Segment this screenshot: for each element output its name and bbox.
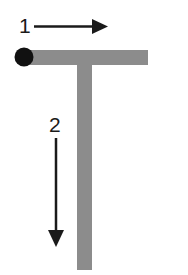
start-dot-icon — [15, 48, 34, 67]
background — [0, 0, 188, 275]
arrow-2-label: 2 — [49, 113, 61, 136]
t-stem-bar — [77, 50, 92, 270]
arrow-1-label: 1 — [19, 14, 31, 37]
t-diagram: 1 2 — [0, 0, 188, 275]
